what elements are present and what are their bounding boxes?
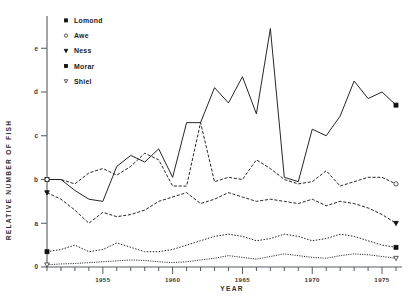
legend-item-lomond: Lomond (64, 17, 102, 24)
legend-item-awe: Awe (64, 32, 88, 39)
series-line-ness (47, 193, 396, 224)
marker-open-circle (64, 34, 67, 37)
x-axis-tick-labels: 19551960196519701975 (95, 276, 390, 283)
x-tick-label: 1975 (374, 276, 390, 283)
marker-filled-triangle-down (394, 221, 399, 225)
marker-filled-square (64, 64, 67, 67)
legend-item-ness: Ness (64, 47, 91, 54)
chart-canvas: 19551960196519701975 0abcde YEAR RELATIV… (0, 0, 417, 296)
y-axis-ticks (41, 48, 47, 267)
marker-filled-square (45, 250, 49, 254)
legend-label: Shiel (74, 78, 92, 85)
marker-filled-square (394, 245, 398, 249)
marker-open-triangle-down (64, 80, 68, 83)
y-tick-label: 0 (34, 263, 38, 270)
y-tick-label: d (34, 88, 38, 95)
legend-label: Morar (74, 63, 94, 70)
series-line-shiel (47, 254, 396, 265)
legend-label: Lomond (74, 17, 103, 24)
x-axis-ticks (47, 267, 396, 274)
chart-legend: LomondAweNessMorarShiel (64, 17, 102, 85)
marker-filled-square (64, 19, 67, 22)
legend-label: Ness (74, 47, 91, 54)
legend-item-shiel: Shiel (64, 78, 92, 85)
series-endpoint-markers (45, 103, 399, 267)
marker-open-circle (394, 182, 398, 186)
x-tick-label: 1970 (305, 276, 321, 283)
x-axis-title: YEAR (220, 285, 244, 292)
data-series-group (47, 29, 396, 265)
series-line-morar (47, 234, 396, 252)
legend-label: Awe (74, 32, 89, 39)
y-tick-label: c (34, 132, 38, 139)
fish-population-line-chart: 19551960196519701975 0abcde YEAR RELATIV… (0, 0, 417, 296)
y-tick-label: b (34, 176, 38, 183)
x-tick-label: 1965 (235, 276, 251, 283)
marker-open-triangle-down (394, 256, 399, 260)
y-tick-label: a (34, 220, 38, 227)
marker-filled-triangle-down (64, 49, 68, 52)
marker-open-circle (45, 177, 49, 181)
series-line-awe (47, 123, 396, 186)
marker-filled-square (394, 103, 398, 107)
x-tick-label: 1955 (95, 276, 111, 283)
y-axis-tick-labels: 0abcde (34, 45, 38, 271)
y-axis-title: RELATIVE NUMBER OF FISH (5, 120, 12, 241)
legend-item-morar: Morar (64, 63, 94, 70)
y-tick-label: e (34, 45, 38, 52)
series-line-lomond (47, 29, 396, 202)
x-tick-label: 1960 (165, 276, 181, 283)
